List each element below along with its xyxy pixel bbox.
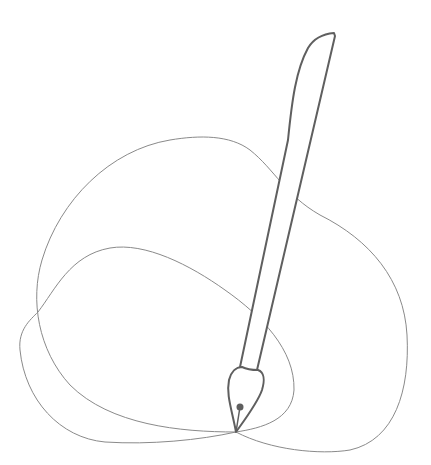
drawing-canvas: Pen tool drawing lasso curves — [0, 0, 431, 465]
outer-loop-curve — [37, 137, 408, 452]
pen-illustration — [0, 0, 431, 465]
nib-hole-icon — [237, 404, 244, 411]
pen-nib — [228, 367, 263, 432]
pen-body — [240, 33, 335, 370]
